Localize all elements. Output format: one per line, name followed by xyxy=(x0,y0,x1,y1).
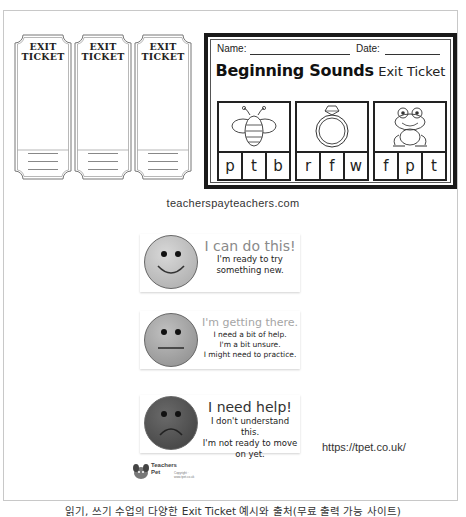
ticket-title: EXITTICKET xyxy=(74,42,132,62)
letter-choice[interactable]: w xyxy=(345,153,367,179)
sad-face-icon xyxy=(144,396,198,450)
letter-choice[interactable]: r xyxy=(297,153,321,179)
exit-ticket-set: EXITTICKET EXITTICKET EXITTICKET xyxy=(14,34,192,180)
feeling-text: I'm getting there. I need a bit of help.… xyxy=(202,316,298,360)
teachers-pet-logo: TeachersPet Copyright · www.tpet.co.uk xyxy=(131,462,199,480)
ticket-field-line xyxy=(148,153,178,154)
feeling-heading: I'm getting there. xyxy=(202,316,298,330)
letter-choices: r f w xyxy=(297,151,367,179)
feeling-text: I can do this! I'm ready to try somethin… xyxy=(202,238,298,276)
frog-icon xyxy=(375,103,445,153)
feeling-card-need-help: I need help! I don't understand this. I'… xyxy=(140,395,300,453)
name-underline xyxy=(250,54,350,55)
picture-card: r f w xyxy=(295,101,369,181)
picture-card: p t b xyxy=(217,101,291,181)
letter-choice[interactable]: f xyxy=(321,153,345,179)
feeling-line: I need a bit of help. xyxy=(202,330,298,340)
ticket-field-line xyxy=(88,153,118,154)
letter-choice[interactable]: f xyxy=(375,153,399,179)
ticket-field-line xyxy=(28,161,58,162)
date-label: Date: xyxy=(356,43,380,54)
heading-regular: Exit Ticket xyxy=(378,64,445,79)
dog-mascot-icon xyxy=(131,462,151,480)
ring-icon xyxy=(297,103,367,153)
feeling-line: I'm not ready to move xyxy=(202,438,298,449)
feeling-line: something new. xyxy=(202,265,298,276)
feeling-text: I need help! I don't understand this. I'… xyxy=(202,398,298,460)
picture-card: f p t xyxy=(373,101,447,181)
exit-ticket: EXITTICKET xyxy=(134,34,192,180)
figure-caption: 읽기, 쓰기 수업의 다양한 Exit Ticket 예시와 출처(무료 출력 … xyxy=(0,503,466,517)
exit-ticket: EXITTICKET xyxy=(74,34,132,180)
ticket-field-line xyxy=(28,153,58,154)
ticket-title: EXITTICKET xyxy=(134,42,192,62)
letter-choice[interactable]: t xyxy=(243,153,267,179)
feeling-heading: I need help! xyxy=(202,398,298,416)
feeling-line: I don't understand this. xyxy=(202,416,298,438)
bee-icon xyxy=(219,103,289,153)
happy-face-icon xyxy=(144,235,198,289)
letter-choice[interactable]: p xyxy=(399,153,423,179)
source-caption-tpet: https://tpet.co.uk/ xyxy=(322,441,406,453)
letter-choices: p t b xyxy=(219,151,289,179)
letter-choices: f p t xyxy=(375,151,445,179)
feeling-line: I might need to practice. xyxy=(202,350,298,360)
logo-copyright: Copyright · www.tpet.co.uk xyxy=(174,471,199,479)
ticket-field-line xyxy=(148,169,178,170)
feeling-line: I'm ready to try xyxy=(202,254,298,265)
neutral-face-icon xyxy=(144,313,198,367)
feeling-heading: I can do this! xyxy=(202,238,298,254)
ticket-field-line xyxy=(148,161,178,162)
ticket-field-line xyxy=(88,169,118,170)
source-caption-tpt: teacherspayteachers.com xyxy=(0,197,466,209)
ticket-title: EXITTICKET xyxy=(14,42,72,62)
feeling-card-getting-there: I'm getting there. I need a bit of help.… xyxy=(140,311,300,369)
beginning-sounds-ticket: Name: Date: Beginning Sounds Exit Ticket… xyxy=(204,33,457,189)
feeling-line: I'm a bit unsure. xyxy=(202,340,298,350)
ticket-field-line xyxy=(28,169,58,170)
ticket-heading: Beginning Sounds Exit Ticket xyxy=(208,61,453,80)
letter-choice[interactable]: t xyxy=(423,153,445,179)
date-underline xyxy=(385,54,440,55)
letter-choice[interactable]: b xyxy=(267,153,289,179)
exit-ticket: EXITTICKET xyxy=(14,34,72,180)
letter-choice[interactable]: p xyxy=(219,153,243,179)
ticket-field-line xyxy=(88,161,118,162)
feeling-line: on yet. xyxy=(202,449,298,460)
name-label: Name: xyxy=(217,43,246,54)
heading-bold: Beginning Sounds xyxy=(216,61,374,80)
feeling-card-confident: I can do this! I'm ready to try somethin… xyxy=(140,234,300,292)
